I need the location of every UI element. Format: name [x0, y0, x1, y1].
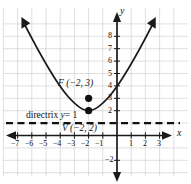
y-tick-label--2: −2: [105, 156, 114, 164]
y-tick-label-8: 8: [108, 32, 112, 40]
grid-lines: [3, 8, 188, 176]
y-tick-label-6: 6: [108, 57, 112, 65]
directrix-label-text: directrix: [26, 110, 58, 120]
x-tick-label-1: 1: [129, 140, 133, 148]
y-tick-label-5: 5: [108, 70, 112, 78]
vertex-point: [85, 107, 92, 114]
y-axis-arrow-down: [113, 172, 121, 182]
vertex-label: V (−2, 2): [62, 124, 97, 134]
x-tick-label--6: −6: [25, 140, 33, 148]
x-tick-label--1: −1: [95, 140, 103, 148]
x-tick-label--3: −3: [67, 140, 75, 148]
x-tick-label-3: 3: [157, 140, 161, 148]
focus-label: F (−2, 3): [58, 79, 93, 89]
y-tick-label-4: 4: [108, 82, 112, 90]
x-tick-label--2: −2: [81, 140, 89, 148]
x-axis-label: x: [177, 128, 181, 138]
y-tick-label-2: 2: [108, 107, 112, 115]
plot-canvas: [0, 0, 191, 184]
x-axis-arrow-right: [162, 131, 172, 139]
x-tick-label-2: 2: [143, 140, 147, 148]
x-tick-label--5: −5: [39, 140, 47, 148]
y-tick-label-7: 7: [108, 45, 112, 53]
focus-point: [85, 95, 92, 102]
y-tick-label-3: 3: [108, 94, 112, 102]
y-axis-label: y: [120, 6, 124, 16]
x-tick-label--4: −4: [53, 140, 61, 148]
directrix-label-equation: = 1: [65, 110, 77, 120]
parabola-figure: −7 −6 −5 −4 −3 −2 −1 1 2 3 8 7 6 5 4 3 2…: [0, 0, 191, 184]
x-tick-label--7: −7: [11, 140, 19, 148]
directrix-label: directrix y= 1: [26, 111, 77, 121]
